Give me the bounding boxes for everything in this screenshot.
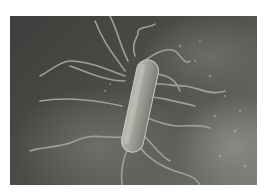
bacterium-illustration bbox=[10, 16, 257, 185]
bacterium-photo bbox=[10, 16, 257, 185]
flagella bbox=[30, 16, 225, 185]
bacterium-cell bbox=[119, 58, 160, 155]
